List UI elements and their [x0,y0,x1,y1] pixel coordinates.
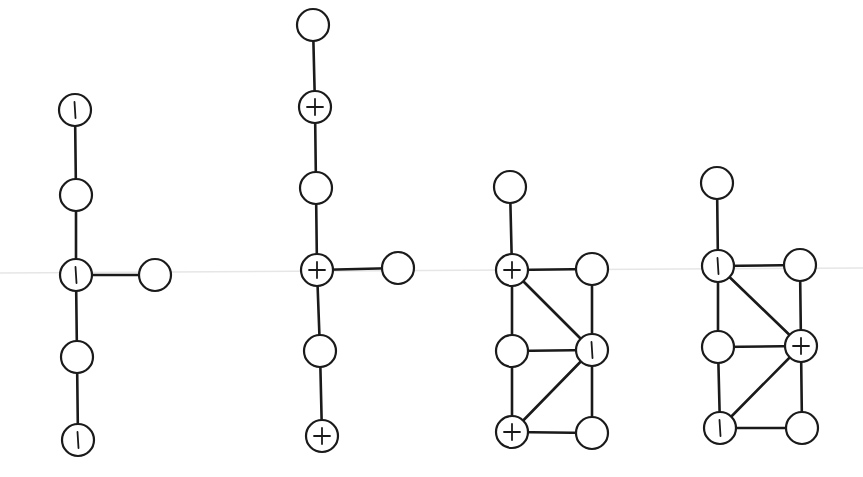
node-circle [702,331,734,363]
node-empty [382,252,414,284]
node-circle [297,9,329,41]
node-empty [496,335,528,367]
bar-icon [76,267,77,283]
node-plus [299,91,331,123]
node-circle [494,171,526,203]
node-empty [139,259,171,291]
graph-3 [494,171,608,449]
graph-4 [701,167,818,444]
node-plus [785,330,817,362]
node-plus [306,420,338,452]
node-circle [382,252,414,284]
node-circle [304,335,336,367]
node-minus [60,259,92,291]
node-empty [784,249,816,281]
node-empty [576,417,608,449]
node-circle [60,179,92,211]
node-empty [494,171,526,203]
node-empty [304,335,336,367]
node-circle [576,417,608,449]
node-minus [62,424,94,456]
node-minus [702,250,734,282]
node-empty [60,179,92,211]
node-circle [61,341,93,373]
bar-icon [718,258,719,274]
node-empty [61,341,93,373]
bar-icon [78,432,79,448]
node-empty [297,9,329,41]
graph-edge [718,266,801,346]
bar-icon [720,420,721,436]
bar-icon [75,102,76,118]
node-circle [786,412,818,444]
graph-1 [59,94,171,456]
node-plus [301,254,333,286]
node-plus [496,416,528,448]
node-minus [576,334,608,366]
node-empty [702,331,734,363]
node-minus [704,412,736,444]
node-circle [701,167,733,199]
node-circle [784,249,816,281]
node-circle [496,335,528,367]
graph-edge [720,346,801,428]
node-circle [300,172,332,204]
node-minus [59,94,91,126]
node-empty [786,412,818,444]
graphs-layer [59,9,818,456]
node-empty [576,253,608,285]
graph-2 [297,9,414,452]
diagram-canvas [0,0,863,477]
node-plus [496,254,528,286]
node-circle [576,253,608,285]
node-circle [139,259,171,291]
node-empty [300,172,332,204]
node-empty [701,167,733,199]
bar-icon [592,342,593,358]
